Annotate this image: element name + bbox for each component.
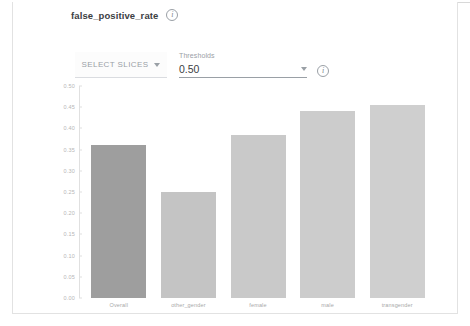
bar-female[interactable] bbox=[231, 135, 286, 298]
y-axis-tick-mark bbox=[79, 276, 82, 277]
y-axis-tick-label: 0.20 bbox=[63, 210, 79, 216]
y-axis-tick-label: 0.30 bbox=[63, 168, 79, 174]
y-axis-tick-mark bbox=[79, 149, 82, 150]
plot-area: 0.000.050.100.150.200.250.300.350.400.45… bbox=[79, 86, 427, 298]
y-axis-tick-mark bbox=[79, 234, 82, 235]
x-axis-label: transgender bbox=[358, 302, 437, 308]
x-axis-label: male bbox=[288, 302, 367, 308]
y-axis-tick-mark bbox=[79, 213, 82, 214]
y-axis-tick-label: 0.35 bbox=[63, 147, 79, 153]
metric-panel: false_positive_rate i SELECT SLICES Thre… bbox=[12, 2, 458, 314]
y-axis-tick-mark bbox=[79, 107, 82, 108]
y-axis-tick-mark bbox=[79, 255, 82, 256]
y-axis-tick-mark bbox=[79, 298, 82, 299]
y-axis-tick-label: 0.40 bbox=[63, 125, 79, 131]
y-axis-tick-label: 0.15 bbox=[63, 231, 79, 237]
y-axis-tick-label: 0.00 bbox=[63, 295, 79, 301]
bar-chart: 0.000.050.100.150.200.250.300.350.400.45… bbox=[13, 2, 459, 314]
y-axis-tick-label: 0.05 bbox=[63, 274, 79, 280]
y-axis-tick-label: 0.50 bbox=[63, 83, 79, 89]
y-axis-tick-mark bbox=[79, 86, 82, 87]
y-axis-tick-label: 0.10 bbox=[63, 253, 79, 259]
bar-transgender[interactable] bbox=[370, 105, 425, 298]
y-axis-tick-mark bbox=[79, 170, 82, 171]
bar-other_gender[interactable] bbox=[161, 192, 216, 298]
y-axis-tick-label: 0.25 bbox=[63, 189, 79, 195]
bar-Overall[interactable] bbox=[91, 145, 146, 298]
x-axis-label: Overall bbox=[79, 302, 158, 308]
y-axis-tick-mark bbox=[79, 128, 82, 129]
x-axis-label: female bbox=[219, 302, 298, 308]
y-axis-tick-label: 0.45 bbox=[63, 104, 79, 110]
y-axis-tick-mark bbox=[79, 192, 82, 193]
bar-male[interactable] bbox=[300, 111, 355, 298]
x-axis-label: other_gender bbox=[149, 302, 228, 308]
